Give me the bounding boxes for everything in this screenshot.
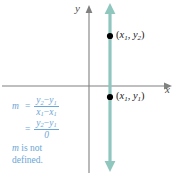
upper-label-x-sub: 1 xyxy=(124,34,128,42)
upper-point-dot xyxy=(107,33,113,39)
f2-num-b-sub: 1 xyxy=(53,121,56,128)
undefined-statement-line-1: m is not xyxy=(12,143,59,155)
slope-variable: m xyxy=(12,102,25,112)
lower-point-dot xyxy=(107,94,113,100)
f1-den-a: x xyxy=(36,107,40,117)
lower-label-y-sub: 1 xyxy=(138,95,142,103)
y-axis-label: y xyxy=(75,3,80,14)
fraction-2-numerator: y2−y1 xyxy=(34,119,58,129)
fraction-1-numerator: y2−y1 xyxy=(34,96,58,106)
slope-fraction-2: y2−y1 0 xyxy=(34,119,58,141)
fraction-1-denominator: x1−x1 xyxy=(34,108,58,118)
upper-point-label: (x1, y2) xyxy=(116,30,145,41)
f1-den-b-sub: 1 xyxy=(53,110,56,117)
upper-close-paren: ) xyxy=(141,29,145,40)
f2-num-a: y xyxy=(36,118,40,128)
undefined-rest: is not xyxy=(19,143,42,153)
slope-computation: m = y2−y1 x1−x1 = y2−y1 0 m is not defin… xyxy=(12,96,59,167)
undefined-m: m xyxy=(12,143,19,153)
undefined-statement-line-2: defined. xyxy=(12,155,59,167)
f1-den-a-sub: 1 xyxy=(41,110,44,117)
vertical-line xyxy=(105,3,116,172)
f1-num-a-sub: 2 xyxy=(41,99,44,106)
y-axis xyxy=(86,5,93,173)
lower-label-x-sub: 1 xyxy=(124,95,128,103)
upper-comma: , xyxy=(128,29,131,40)
x-axis xyxy=(2,83,172,90)
fraction-2-denominator: 0 xyxy=(42,131,51,141)
lower-close-paren: ) xyxy=(141,90,145,101)
equals-sign-1: = xyxy=(25,102,30,112)
slope-equation-line-2: = y2−y1 0 xyxy=(12,119,59,141)
lower-label-y: y xyxy=(133,90,138,101)
f2-num-a-sub: 2 xyxy=(41,121,44,128)
slope-equation-line-1: m = y2−y1 x1−x1 xyxy=(12,96,59,118)
slope-fraction-1: y2−y1 x1−x1 xyxy=(34,96,58,118)
equals-sign-2: = xyxy=(25,125,30,135)
f1-num-b-sub: 1 xyxy=(53,99,56,106)
slope-undefined-figure: y x (x1, y2) (x1, y1) m = y2−y1 x1−x1 = … xyxy=(0,0,176,175)
x-axis-label: x xyxy=(165,84,170,95)
lower-point-label: (x1, y1) xyxy=(116,91,145,102)
lower-comma: , xyxy=(128,90,131,101)
upper-label-y: y xyxy=(133,29,138,40)
f1-num-a: y xyxy=(36,95,40,105)
undefined-statement: m is not defined. xyxy=(12,143,59,167)
upper-label-y-sub: 2 xyxy=(138,34,142,42)
